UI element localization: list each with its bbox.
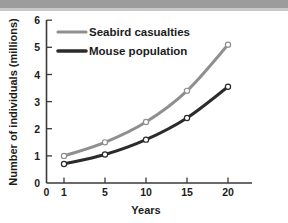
y-tick-label-3: 3 (34, 96, 40, 108)
data-point (184, 115, 189, 120)
data-point (225, 42, 230, 47)
x-tick-label-10: 10 (140, 186, 152, 198)
line-chart: 6 5 4 3 2 1 0 0 1 5 10 15 20 Years Numbe… (0, 0, 288, 223)
legend-label-seabird-casualties: Seabird casualties (89, 26, 190, 38)
x-axis-ticks (64, 178, 228, 184)
y-tick-label-5: 5 (34, 41, 40, 53)
data-point (61, 161, 66, 166)
x-tick-label-20: 20 (222, 186, 234, 198)
legend-label-mouse-population: Mouse population (89, 45, 187, 57)
y-tick-label-2: 2 (34, 123, 40, 135)
chart-legend: Seabird casualties Mouse population (58, 26, 190, 57)
series-markers-mouse-population (61, 84, 230, 166)
y-tick-label-6: 6 (34, 14, 40, 26)
data-point (102, 140, 107, 145)
data-point (102, 152, 107, 157)
data-point (143, 119, 148, 124)
data-point (61, 153, 66, 158)
x-tick-label-15: 15 (181, 186, 193, 198)
data-point (143, 137, 148, 142)
x-axis-title: Years (131, 204, 160, 216)
data-point (184, 88, 189, 93)
chart-figure: 6 5 4 3 2 1 0 0 1 5 10 15 20 Years Numbe… (0, 0, 288, 223)
series-line-mouse-population (64, 87, 228, 164)
x-tick-label-1: 1 (61, 186, 67, 198)
x-tick-label-5: 5 (102, 186, 108, 198)
x-tick-label-0: 0 (44, 186, 50, 198)
data-point (225, 84, 230, 89)
y-tick-label-4: 4 (34, 69, 40, 81)
y-tick-label-1: 1 (34, 150, 40, 162)
y-tick-label-0: 0 (34, 177, 40, 189)
y-axis-title: Number of individuals (millions) (7, 18, 19, 186)
y-axis-ticks (47, 20, 53, 156)
